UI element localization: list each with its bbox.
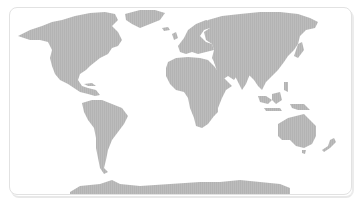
greenland [125, 10, 165, 28]
north-america [18, 12, 122, 96]
iceland [162, 27, 170, 31]
new-guinea [290, 104, 310, 110]
borneo [272, 92, 282, 104]
uk [172, 32, 178, 40]
australia [278, 114, 316, 148]
indonesia [258, 96, 272, 104]
world-map [0, 0, 357, 201]
antarctica [70, 180, 290, 194]
java [264, 108, 282, 111]
cuba [84, 83, 96, 86]
india [234, 68, 250, 90]
south-america [82, 100, 128, 174]
new-zealand [322, 138, 336, 152]
tasmania [302, 150, 306, 154]
philippines [284, 82, 288, 92]
